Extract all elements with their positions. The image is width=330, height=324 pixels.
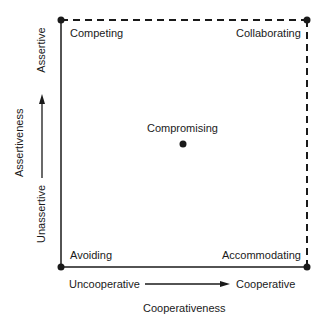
- label-collaborating: Collaborating: [236, 27, 301, 39]
- dot-compromising: [180, 141, 187, 148]
- label-avoiding: Avoiding: [70, 249, 112, 261]
- y-axis-title: Assertiveness: [13, 111, 25, 177]
- y-axis-low-label: Unassertive: [35, 183, 47, 245]
- dot-accommodating: [304, 264, 311, 271]
- label-accommodating: Accommodating: [222, 249, 301, 261]
- label-competing: Competing: [70, 27, 123, 39]
- label-compromising: Compromising: [147, 122, 218, 134]
- dot-avoiding: [58, 264, 65, 271]
- dot-competing: [58, 17, 65, 24]
- x-axis-low-label: Uncooperative: [69, 278, 140, 290]
- x-axis-arrowhead-icon: [220, 281, 230, 287]
- dot-collaborating: [304, 17, 311, 24]
- y-axis-high-label: Assertive: [35, 27, 47, 73]
- x-axis-title: Cooperativeness: [143, 302, 226, 314]
- y-axis-arrowhead-icon: [39, 94, 45, 104]
- diagram-canvas: [0, 0, 330, 324]
- x-axis-high-label: Cooperative: [236, 278, 295, 290]
